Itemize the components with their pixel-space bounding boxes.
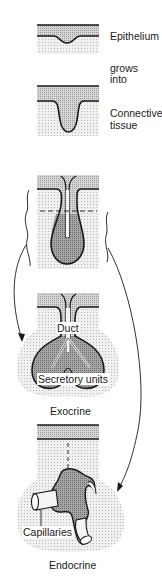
arrow-to-exocrine [14, 245, 26, 342]
label-secretory-units: Secretory units [37, 373, 109, 385]
label-into: into [110, 73, 127, 85]
right-brace [106, 212, 108, 262]
label-duct: Duct [56, 322, 80, 334]
label-endocrine: Endocrine [49, 559, 96, 571]
stage-1-flat-epithelium [37, 24, 99, 54]
label-connective: Connective [110, 107, 162, 119]
gland-development-diagram [0, 0, 162, 578]
label-exocrine: Exocrine [50, 405, 91, 417]
left-brace [25, 190, 30, 266]
label-tissue: tissue [110, 119, 137, 131]
stage-3-gland-rudiment [25, 175, 108, 269]
label-capillaries: Capillaries [22, 526, 73, 538]
label-epithelium: Epithelium [110, 30, 159, 42]
stage-2-downgrowth [37, 86, 99, 136]
